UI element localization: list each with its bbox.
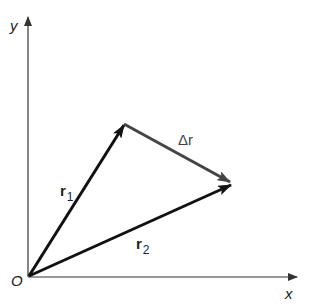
delta-r-label: Δr	[178, 132, 193, 147]
r1-label-main: r	[60, 182, 66, 199]
r2-label-main: r	[136, 235, 142, 252]
r1-label-sub: 1	[67, 190, 74, 204]
r1-label: r1	[60, 183, 74, 198]
vector-diagram	[0, 0, 329, 305]
y-axis-label: y	[10, 18, 18, 33]
r2-label: r2	[136, 236, 150, 251]
r2-label-sub: 2	[143, 243, 150, 257]
vector-delta-r	[124, 124, 230, 182]
x-axis-label: x	[285, 286, 293, 301]
origin-label: O	[11, 273, 23, 288]
